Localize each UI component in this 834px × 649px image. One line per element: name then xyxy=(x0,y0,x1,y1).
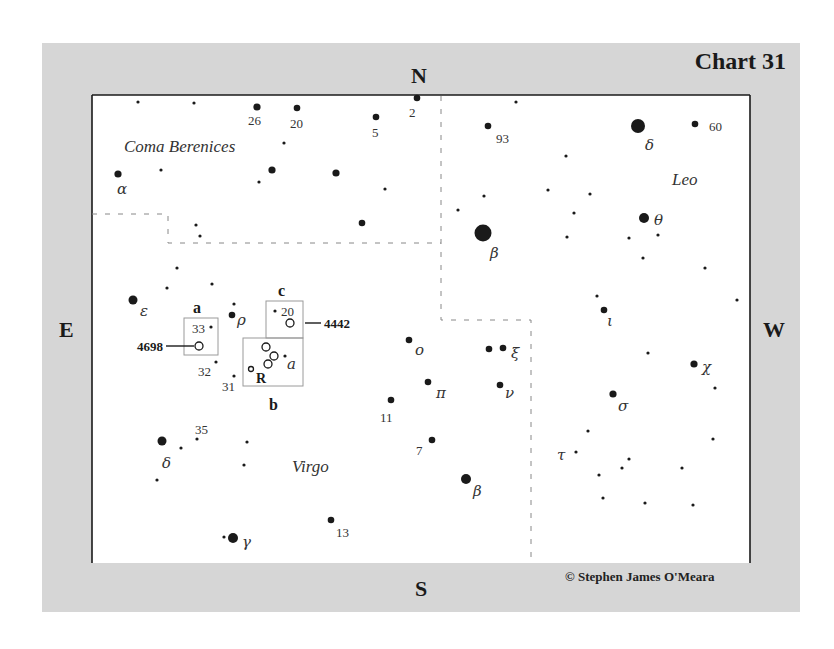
copyright-notice: © Stephen James O'Meara xyxy=(565,569,714,585)
galaxy-label: 4442 xyxy=(324,316,350,331)
star-icon xyxy=(359,220,366,227)
star-icon xyxy=(229,312,236,319)
galaxy-icon xyxy=(264,360,272,368)
star-icon xyxy=(631,119,645,133)
star-label: 35 xyxy=(195,422,208,437)
star-label: α xyxy=(117,180,127,198)
star-label: 7 xyxy=(416,443,423,458)
galaxy-icon xyxy=(262,343,270,351)
star-icon xyxy=(425,379,432,386)
variable-star-label: R xyxy=(256,371,267,386)
star-label: χ xyxy=(701,358,712,376)
star-icon xyxy=(214,360,217,363)
finder-box-label: a xyxy=(193,299,201,316)
star-label: 60 xyxy=(709,119,722,134)
star-icon xyxy=(192,101,195,104)
star-label: 93 xyxy=(496,131,509,146)
star-label: 20 xyxy=(290,116,303,131)
star-icon xyxy=(328,517,335,524)
star-icon xyxy=(692,121,699,128)
star-icon xyxy=(198,234,201,237)
star-icon xyxy=(646,351,649,354)
galaxy-icon xyxy=(270,352,278,360)
star-label: 5 xyxy=(372,125,379,140)
star-icon xyxy=(406,337,413,344)
sky-field xyxy=(92,95,750,563)
star-icon xyxy=(209,325,212,328)
star-label: τ xyxy=(557,446,566,464)
star-icon xyxy=(627,236,630,239)
star-icon xyxy=(210,282,213,285)
star-icon xyxy=(332,169,339,176)
star-icon xyxy=(514,100,517,103)
star-icon xyxy=(574,450,577,453)
compass-west: W xyxy=(763,317,785,343)
star-icon xyxy=(165,286,168,289)
compass-north: N xyxy=(411,63,427,89)
star-icon xyxy=(232,374,235,377)
star-label: 11 xyxy=(380,410,393,425)
constellation-name: Coma Berenices xyxy=(124,137,236,156)
star-icon xyxy=(620,466,623,469)
star-icon xyxy=(572,211,575,214)
star-icon xyxy=(257,180,260,183)
star-icon xyxy=(691,503,694,506)
star-icon xyxy=(253,103,260,110)
star-icon xyxy=(136,100,139,103)
star-label: ξ xyxy=(511,344,520,362)
star-icon xyxy=(475,225,492,242)
star-label: ν xyxy=(505,384,514,402)
galaxy-icon xyxy=(286,319,294,327)
star-label: δ xyxy=(162,454,171,472)
star-icon xyxy=(601,496,604,499)
finder-box-label: b xyxy=(269,396,278,413)
star-icon xyxy=(273,309,276,312)
star-icon xyxy=(482,194,485,197)
star-icon xyxy=(232,302,235,305)
star-icon xyxy=(373,114,380,121)
star-icon xyxy=(595,294,598,297)
star-icon xyxy=(565,235,568,238)
star-icon xyxy=(627,457,630,460)
star-label: 32 xyxy=(198,364,211,379)
star-icon xyxy=(383,187,386,190)
star-icon xyxy=(222,535,225,538)
star-chart: abc 46984442R 262052α93δ60θβιερ3320a3231… xyxy=(0,0,834,649)
star-icon xyxy=(179,446,182,449)
star-icon xyxy=(195,437,198,440)
compass-east: E xyxy=(59,317,74,343)
star-label: a xyxy=(287,355,296,373)
star-icon xyxy=(643,501,646,504)
star-icon xyxy=(485,123,492,130)
star-label: β xyxy=(489,244,499,262)
star-icon xyxy=(486,346,493,353)
star-icon xyxy=(175,266,178,269)
galaxy-icon xyxy=(195,342,203,350)
star-label: 13 xyxy=(336,525,349,540)
star-icon xyxy=(242,463,245,466)
star-label: 2 xyxy=(409,105,416,120)
star-label: π xyxy=(435,384,447,402)
star-label: ε xyxy=(140,302,148,320)
star-icon xyxy=(388,397,395,404)
star-icon xyxy=(294,105,301,112)
star-icon xyxy=(114,170,121,177)
star-label: θ xyxy=(654,211,663,229)
star-icon xyxy=(680,466,683,469)
star-icon xyxy=(564,154,567,157)
star-icon xyxy=(641,256,644,259)
star-icon xyxy=(586,429,589,432)
star-icon xyxy=(588,192,591,195)
star-label: ι xyxy=(607,312,613,330)
star-icon xyxy=(597,473,600,476)
star-label: δ xyxy=(645,136,654,154)
star-icon xyxy=(268,166,275,173)
star-label: 31 xyxy=(222,379,235,394)
star-icon xyxy=(429,437,436,444)
star-icon xyxy=(282,141,285,144)
star-label: β xyxy=(472,482,482,500)
constellation-name: Leo xyxy=(671,170,698,189)
star-icon xyxy=(497,382,504,389)
star-label: 26 xyxy=(248,113,262,128)
star-label: σ xyxy=(618,397,629,415)
